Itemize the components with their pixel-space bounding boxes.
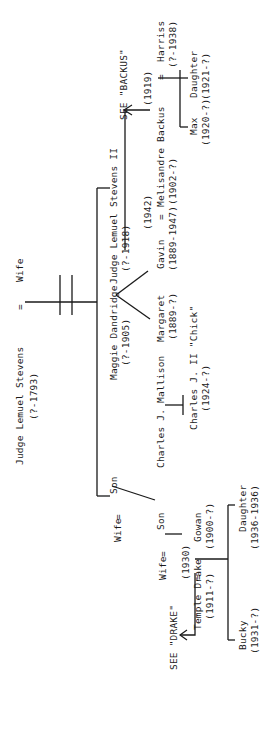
family-tree-diagram: Judge Lemuel Stevens = Wife (?-1793) Son…	[0, 0, 278, 730]
bucky-dates: (1931-?)	[249, 607, 260, 654]
daughter-backus-dates: (1921-?)	[200, 53, 211, 100]
gavin-name: Gavin	[155, 239, 166, 269]
harriss-marriage-sign: =	[155, 74, 166, 80]
temple-drake-name: Temple Drake	[192, 559, 203, 630]
son-1-name: Son	[108, 476, 119, 494]
root-wife-name: Wife	[14, 258, 25, 282]
melisandre-backus-dates: (1902-?)	[167, 158, 178, 205]
maggie-dandridge-name: Maggie Dandridge	[108, 285, 119, 380]
gavin-marriage-sign: =	[155, 214, 166, 220]
charles-mallison-name: Charles J. Mallison	[155, 356, 166, 468]
gavin-marriage-year: (1942)	[142, 194, 153, 230]
max-dates: (1920-?)	[200, 99, 211, 146]
judge-lemuel-stevens-dates: (?-1793)	[28, 373, 39, 420]
backus-marriage-year: (1919)	[142, 70, 153, 106]
max-name: Max	[188, 117, 199, 135]
wife-gen3-sign: =	[112, 514, 123, 520]
gavin-dates: (1889-1947)	[167, 206, 178, 271]
wife-gen4-name: Wife	[157, 556, 168, 580]
gowan-name: Gowan	[192, 512, 203, 542]
daughter-gen5-name: Daughter	[237, 485, 248, 532]
wife-gen3-name: Wife	[112, 518, 123, 542]
harriss-dates: (?-1938)	[167, 21, 178, 68]
judge-lemuel-stevens-ii-dates: (?-1918)	[120, 225, 131, 272]
harriss-name: Harriss	[155, 21, 166, 62]
judge-lemuel-stevens-ii-name: Judge Lemuel Stevens II	[108, 148, 119, 284]
see-backus-reference[interactable]: SEE "BACKUS"	[118, 49, 129, 120]
wife-gen4-sign: =	[157, 551, 168, 557]
temple-drake-dates: (1911-?)	[204, 573, 215, 620]
maggie-dandridge-dates: (?-1905)	[120, 319, 131, 366]
gowan-marriage-year: (1930)	[180, 544, 191, 580]
melisandre-backus-name: Melisandre Backus	[155, 106, 166, 207]
chick-dates: (1924-?)	[200, 365, 211, 412]
see-drake-reference[interactable]: SEE "DRAKE"	[168, 605, 179, 670]
son-2-name: Son	[155, 512, 166, 530]
bucky-name: Bucky	[237, 620, 248, 650]
judge-lemuel-stevens-name: Judge Lemuel Stevens	[14, 347, 25, 465]
daughter-backus-name: Daughter	[188, 51, 199, 98]
root-marriage-sign: =	[14, 304, 25, 310]
gowan-dates: (1900-?)	[204, 503, 215, 550]
margaret-dates: (1889-?)	[167, 293, 178, 340]
daughter-gen5-dates: (1936-1936)	[249, 485, 260, 550]
chick-name: Charles J. II "Chick"	[188, 306, 199, 430]
margaret-name: Margaret	[155, 295, 166, 342]
